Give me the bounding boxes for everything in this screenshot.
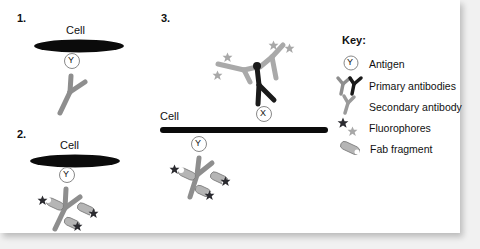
panel-3-cell-label: Cell <box>160 110 179 122</box>
panel-1-graphics <box>34 40 124 114</box>
panel-2-cell-label: Cell <box>60 139 79 151</box>
panel-3-antigen-x-label: X <box>260 108 266 118</box>
key-label-primary-antibodies: Primary antibodies <box>369 80 456 92</box>
panel-3-number: 3. <box>161 12 170 24</box>
cell-membrane <box>34 40 124 53</box>
panel-3-antigen-y-label: Y <box>195 138 201 148</box>
panel-2-graphics <box>30 155 120 232</box>
key-label-secondary-antibody: Secondary antibody <box>369 101 462 113</box>
panel-2-antigen-label: Y <box>63 169 69 179</box>
key-label-antigen: Antigen <box>369 58 405 70</box>
fluorophore-dark-star-icon <box>338 118 349 128</box>
panel-1-number: 1. <box>17 12 26 24</box>
panel-1-antigen-label: Y <box>68 55 74 65</box>
fluorophore-light-star-icon <box>348 127 358 136</box>
key-antigen-symbol: Y <box>347 57 353 67</box>
primary-antibodies-icon <box>338 78 361 94</box>
panel-2-number: 2. <box>17 128 26 140</box>
fab-fragment-icon <box>339 140 361 156</box>
key-icons <box>338 56 361 156</box>
secondary-antibody-icon <box>218 45 283 82</box>
cell-membrane <box>160 127 328 133</box>
secondary-antibody-icon <box>60 76 85 113</box>
key-label-fluorophores: Fluorophores <box>369 122 431 134</box>
primary-antibody-icon <box>257 67 274 104</box>
key-title: Key: <box>342 34 366 46</box>
cell-membrane <box>30 155 120 168</box>
figure-card: 1. Cell Y 2. Cell Y 3. Cell X Y Key: Y A… <box>0 0 460 233</box>
panel-1-cell-label: Cell <box>66 24 85 36</box>
key-label-fab-fragment: Fab fragment <box>370 143 432 155</box>
secondary-antibody-icon <box>344 96 354 113</box>
panel-3-graphics <box>160 41 328 200</box>
